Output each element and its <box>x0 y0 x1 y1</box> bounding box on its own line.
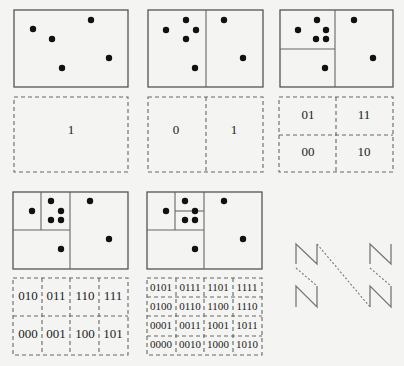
cell-code: 1001 <box>207 319 229 331</box>
data-point <box>221 198 227 204</box>
data-point <box>163 27 169 33</box>
data-point <box>221 17 227 23</box>
data-point <box>87 198 93 204</box>
cell-code: 010 <box>18 288 38 303</box>
connector-dotted <box>370 268 391 286</box>
data-point <box>240 236 246 242</box>
data-point <box>182 198 188 204</box>
data-point <box>88 17 94 23</box>
cell-code: 101 <box>103 326 123 341</box>
cell-code: 1 <box>68 122 75 137</box>
data-point <box>240 55 246 61</box>
cell-code: 11 <box>358 107 371 122</box>
data-point <box>182 217 188 223</box>
panel-level-0: 1 <box>14 10 128 172</box>
cell-code: 110 <box>75 288 94 303</box>
data-point <box>58 217 64 223</box>
z-order-curve-icon <box>296 244 391 307</box>
point-space-box <box>14 10 128 87</box>
data-point <box>30 26 36 32</box>
cell-code: 0111 <box>179 281 200 293</box>
cell-code: 0 <box>173 122 180 137</box>
cell-code: 1 <box>231 122 238 137</box>
panel-level-2: 01 11 00 10 <box>279 10 393 172</box>
data-point <box>192 217 198 223</box>
cell-code: 0100 <box>150 300 173 312</box>
panel-level-1: 0 1 <box>148 10 263 172</box>
cell-code: 1000 <box>207 338 230 350</box>
cell-code: 001 <box>46 326 66 341</box>
z-shape <box>296 286 317 307</box>
panel-level-3: 010 011 110 111 000 001 100 101 <box>13 192 128 355</box>
cell-code: 000 <box>18 326 38 341</box>
cell-code: 1111 <box>237 281 258 293</box>
z-shape <box>370 244 391 264</box>
data-point <box>58 246 64 252</box>
cell-code: 1101 <box>207 281 229 293</box>
cell-code: 01 <box>302 107 315 122</box>
cell-code: 0101 <box>150 281 172 293</box>
data-point <box>313 36 319 42</box>
cell-code: 0000 <box>150 338 173 350</box>
z-shape <box>296 244 317 264</box>
data-point <box>314 17 320 23</box>
data-point <box>49 36 55 42</box>
connector-dotted <box>296 268 317 286</box>
z-shape <box>370 286 391 307</box>
data-point <box>48 217 54 223</box>
cell-code: 0011 <box>179 319 201 331</box>
cell-code: 111 <box>104 288 123 303</box>
data-point <box>48 198 54 204</box>
data-point <box>106 55 112 61</box>
data-point <box>192 246 198 252</box>
data-point <box>323 27 329 33</box>
data-point <box>192 65 198 71</box>
data-point <box>183 36 189 42</box>
data-point <box>322 65 328 71</box>
data-point <box>183 17 189 23</box>
cell-code: 1011 <box>236 319 258 331</box>
data-point <box>351 17 357 23</box>
z-order-diagram: 1 0 1 01 11 00 10 <box>0 0 404 366</box>
panel-level-4: 0101 0111 1101 1111 0100 0110 1100 1110 … <box>147 192 262 355</box>
cell-code: 011 <box>46 288 65 303</box>
data-point <box>59 65 65 71</box>
data-point <box>163 208 169 214</box>
connector-dotted <box>317 244 370 307</box>
cell-code: 0010 <box>179 338 202 350</box>
cell-code: 1110 <box>236 300 258 312</box>
cell-code: 100 <box>75 326 95 341</box>
cell-code: 00 <box>302 144 315 159</box>
cell-code: 10 <box>358 144 371 159</box>
data-point <box>192 208 198 214</box>
data-point <box>58 208 64 214</box>
cell-code: 1010 <box>236 338 259 350</box>
cell-code: 0001 <box>150 319 172 331</box>
cell-code: 0110 <box>179 300 201 312</box>
data-point <box>29 208 35 214</box>
data-point <box>370 55 376 61</box>
data-point <box>106 236 112 242</box>
data-point <box>295 27 301 33</box>
data-point <box>193 27 199 33</box>
cell-code: 1100 <box>207 300 229 312</box>
data-point <box>323 36 329 42</box>
